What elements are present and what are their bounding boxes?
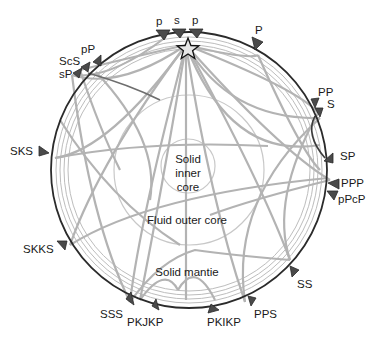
station-label-pPcP: pPcP — [338, 193, 366, 205]
station-label-SKS: SKS — [10, 145, 33, 157]
station-marker-PPS — [248, 296, 256, 306]
station-label-PPS: PPS — [254, 308, 277, 320]
station-label-SKKS: SKKS — [23, 243, 54, 255]
station-label-p2: p — [192, 14, 198, 26]
outer-core-label: Fluid outer core — [147, 214, 227, 226]
mantle-label: Solid mantie — [155, 266, 218, 278]
station-label-ScS: ScS — [59, 55, 80, 67]
station-label-PKIKP: PKIKP — [207, 316, 241, 328]
station-label-p1: p — [156, 15, 162, 27]
inner-core-label-line2: inner — [175, 167, 201, 179]
station-label-SSS: SSS — [100, 308, 123, 320]
station-label-sP: sP — [59, 68, 73, 80]
station-label-PPP: PPP — [341, 177, 364, 189]
inner-core-label-line1: Solid — [175, 153, 201, 165]
seismic-ray-path-diagram: p s p P PP S SP PPP pPcP SS PPS PKIKP PK… — [0, 0, 377, 339]
station-label-PKJKP: PKJKP — [127, 316, 164, 328]
station-marker-pPcP — [327, 191, 338, 200]
station-label-SS: SS — [297, 278, 313, 290]
inner-core-label-line3: core — [177, 181, 199, 193]
station-marker-SKS — [39, 146, 49, 156]
station-label-s: s — [174, 14, 180, 26]
station-label-pP: pP — [81, 43, 95, 55]
station-marker-SKKS — [57, 241, 67, 250]
station-marker-SS — [290, 266, 299, 277]
station-label-PP: PP — [318, 86, 334, 98]
station-label-P: P — [255, 24, 263, 36]
station-marker-pP — [93, 55, 101, 66]
station-label-S: S — [327, 98, 335, 110]
station-label-SP: SP — [340, 150, 356, 162]
